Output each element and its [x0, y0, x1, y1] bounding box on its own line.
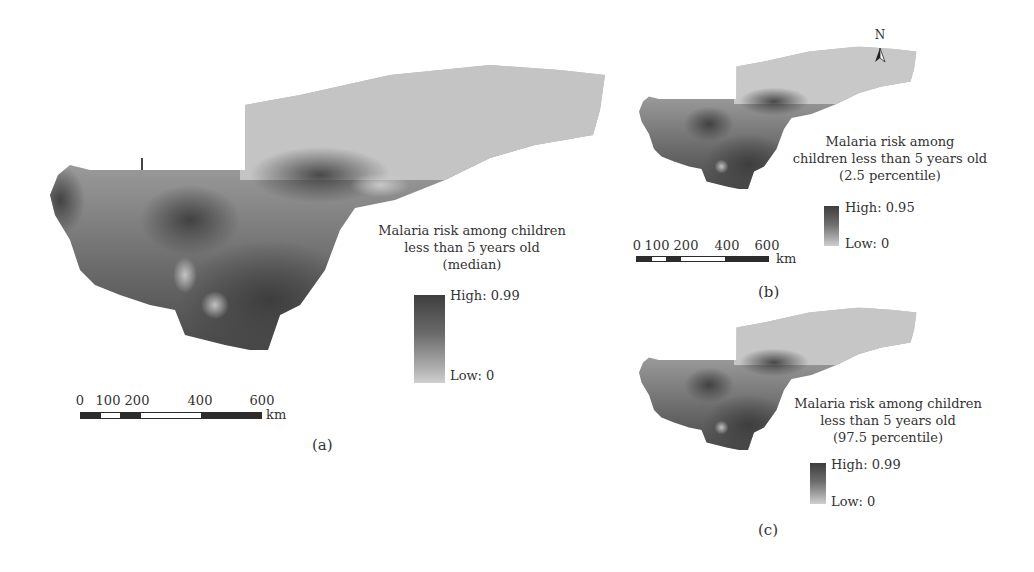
scale-tick: 200	[125, 393, 150, 408]
legend-title-line: (97.5 percentile)	[778, 429, 998, 446]
scale-bar	[80, 412, 262, 419]
legend-title-2-5: Malaria risk among children less than 5 …	[790, 133, 990, 184]
legend-color-ramp	[810, 463, 826, 504]
scale-tick: 100	[645, 238, 670, 253]
scale-tick: 200	[674, 238, 699, 253]
north-label: N	[873, 28, 887, 42]
scale-bar	[636, 256, 769, 262]
legend-high-label: High: 0.99	[831, 457, 901, 472]
scale-tick: 0	[633, 238, 641, 253]
panel-label-c: (c)	[758, 521, 778, 539]
legend-color-ramp	[414, 295, 445, 383]
map-canvas	[0, 0, 1034, 572]
legend-low-label: Low: 0	[831, 494, 875, 509]
scale-tick: 600	[250, 393, 275, 408]
legend-title-line: (median)	[372, 256, 572, 273]
legend-title-line: Malaria risk among children	[778, 395, 998, 412]
legend-color-ramp	[824, 206, 839, 246]
legend-high-label: High: 0.99	[450, 288, 520, 303]
legend-title-line: less than 5 years old	[778, 412, 998, 429]
legend-title-line: Malaria risk among children	[372, 222, 572, 239]
legend-title-line: (2.5 percentile)	[790, 167, 990, 184]
scale-tick: 100	[96, 393, 121, 408]
legend-title-97-5: Malaria risk among children less than 5 …	[778, 395, 998, 446]
panel-label-b: (b)	[758, 283, 779, 301]
legend-title-line: children less than 5 years old	[790, 150, 990, 167]
scale-unit: km	[776, 251, 796, 266]
legend-title-line: less than 5 years old	[372, 239, 572, 256]
legend-high-label: High: 0.95	[845, 200, 915, 215]
legend-title-median: Malaria risk among children less than 5 …	[372, 222, 572, 273]
map-median	[35, 60, 620, 360]
scale-unit: km	[266, 407, 286, 422]
scale-tick: 400	[715, 238, 740, 253]
legend-low-label: Low: 0	[450, 368, 494, 383]
scale-tick: 0	[76, 393, 84, 408]
panel-label-a: (a)	[312, 436, 333, 454]
legend-low-label: Low: 0	[845, 236, 889, 251]
legend-title-line: Malaria risk among	[790, 133, 990, 150]
scale-tick: 400	[188, 393, 213, 408]
